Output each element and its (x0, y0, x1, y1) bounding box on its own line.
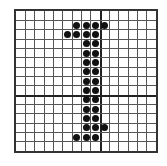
grid-line-vertical (137, 11, 138, 151)
matrix-dot (83, 87, 90, 94)
grid-line-vertical (44, 11, 45, 151)
grid-line-vertical (25, 11, 26, 151)
grid-line-horizontal (16, 104, 156, 105)
grid-line-vertical (146, 11, 147, 151)
matrix-dot (92, 31, 99, 38)
matrix-dot (83, 124, 90, 131)
matrix-dot (64, 31, 71, 38)
matrix-dot (73, 134, 80, 141)
grid-line-vertical (81, 11, 82, 151)
matrix-dot (92, 40, 99, 47)
matrix-dot (83, 31, 90, 38)
matrix-dot (83, 78, 90, 85)
matrix-dot (83, 106, 90, 113)
grid-line-horizontal (16, 76, 156, 77)
matrix-dot (73, 31, 80, 38)
matrix-dot (92, 106, 99, 113)
matrix-dot (101, 124, 108, 131)
matrix-dot (83, 96, 90, 103)
matrix-dot (92, 134, 99, 141)
matrix-dot (92, 50, 99, 57)
matrix-dot (83, 59, 90, 66)
grid-line-horizontal (16, 141, 156, 142)
grid-line-horizontal (16, 132, 156, 133)
matrix-dot (83, 22, 90, 29)
grid-line-vertical (118, 11, 119, 151)
grid-line-vertical (53, 11, 54, 151)
matrix-dot (83, 115, 90, 122)
matrix-dot (92, 96, 99, 103)
dot-matrix-grid (14, 9, 158, 153)
matrix-dot (83, 68, 90, 75)
matrix-dot (73, 22, 80, 29)
matrix-dot (83, 134, 90, 141)
matrix-dot (92, 78, 99, 85)
matrix-dot (92, 87, 99, 94)
grid-line-horizontal (16, 20, 156, 21)
grid-line-vertical (34, 11, 35, 151)
matrix-dot (92, 22, 99, 29)
matrix-dot (101, 22, 108, 29)
grid-line-vertical (62, 11, 63, 151)
matrix-dot (92, 59, 99, 66)
grid-line-vertical (109, 11, 110, 151)
matrix-dot (83, 40, 90, 47)
grid-line-horizontal (16, 48, 156, 49)
matrix-dot (83, 50, 90, 57)
grid-line-vertical (128, 11, 129, 151)
matrix-dot (92, 124, 99, 131)
matrix-dot (92, 68, 99, 75)
matrix-dot (92, 115, 99, 122)
